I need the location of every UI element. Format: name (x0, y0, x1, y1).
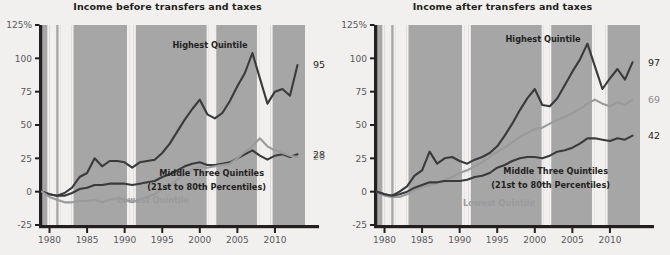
y-tick-label: 100 (15, 54, 32, 64)
y-tick-label: 0 (361, 187, 367, 197)
x-tick (124, 228, 126, 233)
y-axis-ticks: 125%1007550250-25 (341, 20, 374, 230)
y-tick (370, 157, 375, 159)
x-tick-label: 1995 (486, 235, 509, 245)
expansion-shading (270, 25, 305, 225)
y-tick (370, 91, 375, 93)
y-tick (35, 224, 40, 226)
x-tick (199, 228, 201, 233)
x-axis-ticks: 1980198519901995200020052010 (373, 228, 622, 245)
band-gap (592, 25, 594, 225)
end-labels: 952826 (313, 59, 325, 162)
figure-root: Income before transfers and taxes 125%10… (0, 0, 670, 255)
x-tick (609, 228, 611, 233)
y-tick-label: -25 (17, 220, 32, 230)
y-tick (35, 91, 40, 93)
y-tick-label: 25 (21, 154, 32, 164)
band-gap (207, 25, 209, 225)
plot-shading (377, 25, 640, 225)
x-axis-line (39, 225, 319, 228)
y-tick (370, 24, 375, 26)
expansion-shading (469, 25, 544, 225)
x-tick (49, 228, 51, 233)
expansion-shading (406, 25, 464, 225)
band-gap (605, 25, 607, 225)
y-tick (35, 57, 40, 59)
x-tick (534, 228, 536, 233)
x-tick (459, 228, 461, 233)
x-tick-label: 1985 (411, 235, 434, 245)
panel-income-before: Income before transfers and taxes 125%10… (0, 0, 335, 255)
x-tick-label: 2010 (598, 235, 621, 245)
expansion-shading (605, 25, 640, 225)
band-gap (257, 25, 259, 225)
band-gap (542, 25, 544, 225)
band-gap (71, 25, 73, 225)
x-tick (571, 228, 573, 233)
annotation-lowest-quintile: Lowest Quintile (463, 198, 536, 208)
chart-after: 125%1007550250-2519801985199019952000200… (335, 0, 670, 255)
annotation-middle-three-quintiles-line1: Middle Three Quintiles (503, 166, 608, 176)
y-axis-ticks: 125%1007550250-25 (6, 20, 39, 230)
x-tick-label: 1985 (76, 235, 99, 245)
y-tick (370, 124, 375, 126)
x-tick (274, 228, 276, 233)
x-tick (384, 228, 386, 233)
end-label-highest: 97 (648, 57, 660, 68)
end-label-middle: 42 (648, 130, 660, 141)
x-axis-line (374, 225, 654, 228)
band-gap (214, 25, 216, 225)
end-labels: 976942 (648, 57, 660, 141)
x-tick (421, 228, 423, 233)
y-tick-label: 125% (6, 20, 32, 30)
y-tick-label: -25 (352, 220, 367, 230)
end-label-highest: 95 (313, 59, 325, 70)
y-tick (35, 24, 40, 26)
x-tick (161, 228, 163, 233)
band-gap (469, 25, 471, 225)
x-tick-label: 1980 (373, 235, 396, 245)
y-tick-label: 75 (21, 87, 32, 97)
y-tick (35, 157, 40, 159)
annotation-highest-quintile: Highest Quintile (172, 40, 247, 50)
annotation-lowest-quintile: Lowest Quintile (117, 195, 190, 205)
end-label-lowest: 26 (313, 151, 325, 162)
end-label-lowest: 69 (648, 94, 660, 105)
x-tick-label: 1980 (38, 235, 61, 245)
y-tick-label: 25 (356, 154, 367, 164)
expansion-shading (549, 25, 594, 225)
y-tick-label: 125% (341, 20, 367, 30)
x-tick-label: 2005 (561, 235, 584, 245)
y-tick-label: 100 (350, 54, 367, 64)
y-tick (370, 57, 375, 59)
x-tick (496, 228, 498, 233)
x-axis-ticks: 1980198519901995200020052010 (38, 228, 287, 245)
x-tick-label: 2005 (226, 235, 249, 245)
y-tick (370, 224, 375, 226)
annotation-highest-quintile: Highest Quintile (505, 34, 580, 44)
x-tick-label: 2000 (188, 235, 211, 245)
band-gap (270, 25, 272, 225)
x-tick-label: 1995 (151, 235, 174, 245)
y-tick (35, 191, 40, 193)
chart-before: 125%1007550250-2519801985199019952000200… (0, 0, 335, 255)
annotation-middle-three-quintiles-line1: Middle Three Quintiles (159, 168, 264, 178)
y-tick-label: 0 (26, 187, 32, 197)
x-tick-label: 2010 (263, 235, 286, 245)
y-tick (35, 124, 40, 126)
x-tick-label: 2000 (523, 235, 546, 245)
band-gap (462, 25, 464, 225)
panel-income-after: Income after transfers and taxes 125%100… (335, 0, 670, 255)
x-tick (86, 228, 88, 233)
y-tick-label: 50 (356, 120, 368, 130)
x-tick (236, 228, 238, 233)
x-tick-label: 1990 (113, 235, 136, 245)
y-tick (370, 191, 375, 193)
y-tick-label: 50 (21, 120, 33, 130)
y-tick-label: 75 (356, 87, 367, 97)
annotation-middle-three-quintiles-line2: (21st to 80th Percentiles) (491, 180, 610, 190)
annotation-middle-three-quintiles-line2: (21st to 80th Percentiles) (147, 182, 266, 192)
x-tick-label: 1990 (448, 235, 471, 245)
